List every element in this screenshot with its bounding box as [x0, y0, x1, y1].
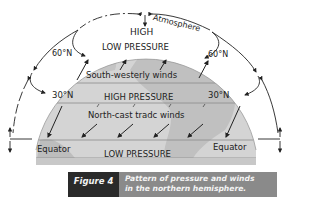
high-pressure-30-label: HIGH PRESSURE — [104, 92, 173, 102]
figure-caption: Figure 4 Pattern of pressure and winds i… — [68, 172, 277, 197]
figure-number: Figure 4 — [68, 172, 119, 197]
north-east-trade-label: North-cast tradc winds — [88, 110, 185, 120]
low-pressure-60-label: LOW PRESSURE — [102, 42, 169, 52]
lat30-right-label: 30°N — [208, 90, 229, 100]
caption-text: Pattern of pressure and winds in the nor… — [119, 172, 277, 197]
atmosphere-label: Atmosphere — [152, 13, 201, 33]
lat60-right-label: 60°N — [208, 50, 228, 59]
lat60-left-label: 60°N — [52, 49, 72, 58]
equator-right-label: Equator — [213, 142, 247, 152]
caption-line-2: in the northern hemisphere. — [125, 184, 277, 194]
south-westerly-label: South-westerly winds — [86, 70, 178, 80]
lat30-left-label: 30°N — [52, 90, 73, 100]
high-top-label: HIGH — [130, 27, 153, 37]
caption-line-1: Pattern of pressure and winds — [125, 174, 277, 184]
low-pressure-eq-label: LOW PRESSURE — [104, 149, 171, 159]
equator-left-label: Equator — [37, 144, 71, 154]
